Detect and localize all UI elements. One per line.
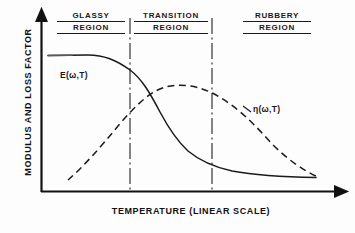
region-rubbery-line1: RUBBERY (243, 12, 311, 22)
y-axis-title: MODULUS AND LOSS FACTOR (23, 7, 33, 197)
figure-container: GLASSY REGION TRANSITION REGION RUBBERY … (0, 0, 355, 233)
loss-factor-curve-label: η(ω,T) (253, 104, 280, 114)
modulus-curve-label: E(ω,T) (60, 70, 88, 80)
region-label-glassy: GLASSY REGION (57, 12, 125, 34)
region-label-transition: TRANSITION REGION (134, 12, 208, 34)
loss-label-leader (243, 106, 251, 112)
loss-factor-curve (68, 85, 318, 180)
region-transition-line1: TRANSITION (134, 12, 208, 22)
region-glassy-line2: REGION (57, 24, 125, 34)
region-label-rubbery: RUBBERY REGION (243, 12, 311, 34)
region-glassy-line1: GLASSY (57, 12, 125, 22)
x-axis-title: TEMPERATURE (LINEAR SCALE) (41, 206, 341, 216)
region-rubbery-line2: REGION (243, 24, 311, 34)
plot-canvas (0, 0, 355, 233)
modulus-curve (48, 55, 316, 178)
region-transition-line2: REGION (134, 24, 208, 34)
